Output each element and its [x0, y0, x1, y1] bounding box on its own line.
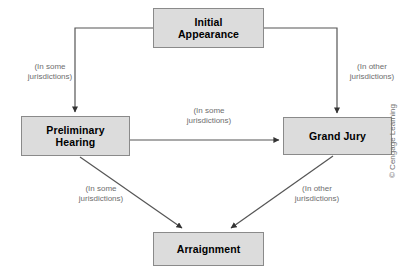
edge-label-initial-appearance-to-grand-jury: (In other jurisdictions) — [330, 62, 414, 82]
node-arraignment: Arraignment — [153, 232, 264, 266]
node-preliminary-hearing: Preliminary Hearing — [21, 116, 130, 156]
node-grand-jury: Grand Jury — [283, 117, 392, 155]
node-preliminary-hearing-label: Preliminary Hearing — [46, 124, 104, 149]
edge-label-grand-jury-to-arraignment: (In other jurisdictions) — [272, 184, 362, 204]
node-initial-appearance: Initial Appearance — [153, 8, 264, 48]
node-initial-appearance-label: Initial Appearance — [178, 16, 239, 41]
node-arraignment-label: Arraignment — [177, 243, 241, 256]
flowchart-diagram: Initial Appearance Preliminary Hearing G… — [0, 0, 418, 274]
edge-label-preliminary-hearing-to-grand-jury: (In some jurisdictions) — [163, 106, 255, 126]
edge-initial-appearance-to-grand-jury — [264, 28, 337, 113]
edge-label-initial-appearance-to-preliminary-hearing: (In some jurisdictions) — [8, 62, 92, 82]
edge-label-preliminary-hearing-to-arraignment: (In some jurisdictions) — [56, 184, 146, 204]
copyright-credit: © Cengage Learning — [388, 82, 397, 178]
node-grand-jury-label: Grand Jury — [309, 130, 366, 143]
